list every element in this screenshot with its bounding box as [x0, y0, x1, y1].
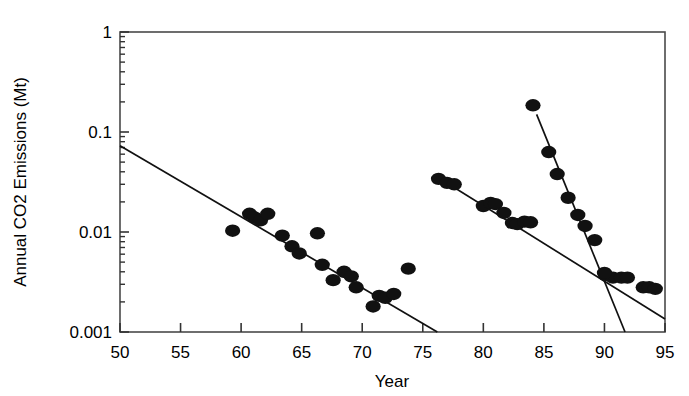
series-cluster-3 [525, 99, 612, 279]
y-tick-label: 0.01 [79, 223, 112, 242]
x-tick-label: 90 [595, 343, 614, 362]
x-tick-label: 75 [413, 343, 432, 362]
y-tick-label: 0.001 [69, 323, 112, 342]
y-axis-major-ticks [120, 32, 129, 332]
data-point [620, 271, 635, 283]
series-cluster-2 [431, 173, 663, 295]
data-point [292, 247, 307, 259]
data-point [577, 220, 592, 232]
x-tick-label: 65 [292, 343, 311, 362]
scatter-data-points [225, 99, 663, 313]
data-point [648, 283, 663, 295]
y-axis-tick-labels: 0.0010.010.11 [69, 23, 112, 342]
chart-canvas: 0.0010.010.11 50556065707580859095 Year … [0, 0, 689, 396]
x-tick-label: 95 [656, 343, 675, 362]
data-point [315, 259, 330, 271]
data-point [496, 207, 511, 219]
data-point [525, 99, 540, 111]
y-tick-label: 0.1 [88, 123, 112, 142]
plot-frame [120, 32, 665, 332]
x-tick-label: 50 [111, 343, 130, 362]
fit-line-2 [437, 177, 665, 319]
data-point [570, 209, 585, 221]
data-point [344, 270, 359, 282]
data-point [447, 178, 462, 190]
x-axis-major-ticks [120, 323, 665, 332]
data-point [587, 234, 602, 246]
data-point [541, 146, 556, 158]
x-tick-label: 60 [232, 343, 251, 362]
data-point [401, 262, 416, 274]
data-point [275, 229, 290, 241]
x-axis-title: Year [375, 372, 410, 391]
data-point [550, 168, 565, 180]
y-axis-title: Annual CO2 Emissions (Mt) [11, 77, 30, 287]
data-point [523, 216, 538, 228]
data-point [597, 267, 612, 279]
x-tick-label: 85 [534, 343, 553, 362]
data-point [366, 300, 381, 312]
x-tick-label: 70 [353, 343, 372, 362]
x-tick-label: 55 [171, 343, 190, 362]
x-tick-label: 80 [474, 343, 493, 362]
y-tick-label: 1 [103, 23, 112, 42]
data-point [260, 208, 275, 220]
data-point [225, 225, 240, 237]
data-point [310, 227, 325, 239]
data-point [386, 288, 401, 300]
series-cluster-1 [225, 208, 416, 313]
x-axis-tick-labels: 50556065707580859095 [111, 343, 675, 362]
data-point [561, 192, 576, 204]
chart-figure: 0.0010.010.11 50556065707580859095 Year … [0, 0, 689, 396]
data-point [349, 281, 364, 293]
